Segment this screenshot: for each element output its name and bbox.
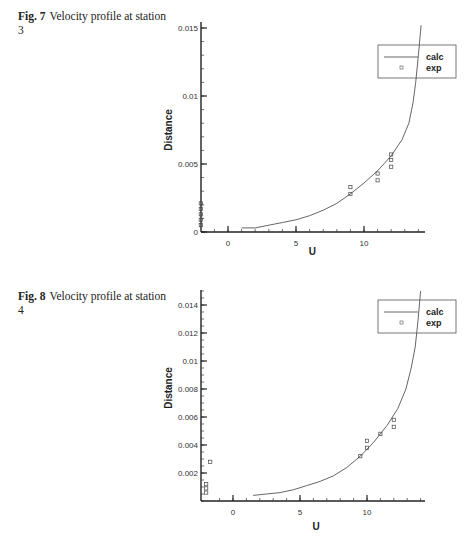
- x-axis-title: U: [312, 521, 319, 532]
- y-tick-label: 0.006: [178, 413, 199, 422]
- exp-marker: [390, 158, 393, 161]
- y-tick-label: 0.014: [178, 301, 199, 310]
- y-tick-label: 0.002: [178, 469, 199, 478]
- y-axis-title: Distance: [163, 367, 174, 409]
- exp-marker: [205, 483, 208, 486]
- figure-8-chart: 0.0020.0040.0060.0080.010.0120.0140510UD…: [0, 268, 467, 538]
- y-tick-label: 0.012: [178, 329, 199, 338]
- y-tick-label: 0.008: [178, 385, 199, 394]
- exp-marker: [209, 460, 212, 463]
- x-tick-label: 5: [298, 508, 303, 517]
- exp-marker: [392, 425, 395, 428]
- legend-square-swatch: [400, 66, 403, 69]
- plot-area: 0.0020.0040.0060.0080.010.0120.0140510UD…: [163, 290, 425, 532]
- y-tick-label: 0.005: [178, 160, 199, 169]
- y-tick-label: 0.01: [182, 357, 198, 366]
- legend-label-calc: calc: [426, 52, 444, 62]
- y-tick-label: 0: [194, 228, 199, 237]
- x-axis-title: U: [309, 246, 316, 257]
- x-tick-label: 10: [363, 508, 372, 517]
- x-tick-label: 10: [360, 239, 369, 248]
- legend-label-exp: exp: [426, 63, 442, 73]
- exp-marker: [349, 186, 352, 189]
- exp-marker: [390, 165, 393, 168]
- exp-marker: [365, 439, 368, 442]
- x-tick-label: 5: [294, 239, 299, 248]
- y-tick-label: 0.015: [178, 24, 199, 33]
- exp-marker: [376, 179, 379, 182]
- calc-line: [253, 291, 421, 495]
- legend-label-exp: exp: [426, 318, 442, 328]
- y-axis-title: Distance: [163, 109, 174, 151]
- y-tick-label: 0.01: [182, 92, 198, 101]
- y-tick-label: 0.004: [178, 441, 199, 450]
- exp-marker: [205, 491, 208, 494]
- figure-7-chart: 00.0050.010.0150510UDistancecalcexp: [0, 0, 467, 270]
- calc-line: [242, 25, 422, 228]
- legend-square-swatch: [400, 321, 403, 324]
- legend-label-calc: calc: [426, 307, 444, 317]
- x-tick-label: 0: [226, 239, 231, 248]
- x-tick-label: 0: [231, 508, 236, 517]
- exp-marker: [205, 487, 208, 490]
- exp-marker: [392, 418, 395, 421]
